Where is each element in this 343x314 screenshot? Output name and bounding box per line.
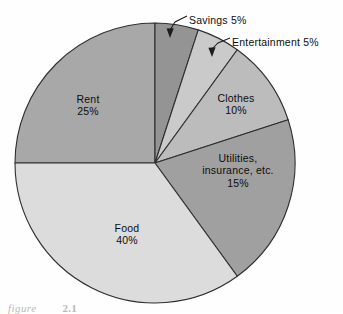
pie-label-utilities: Utilities, insurance, etc. 15% bbox=[186, 152, 290, 189]
pie-label-clothes: Clothes 10% bbox=[203, 92, 269, 117]
pie-label-savings-text: Savings 5% bbox=[189, 14, 247, 26]
pie-label-food-value: 40% bbox=[94, 234, 160, 246]
pie-label-clothes-value: 10% bbox=[203, 104, 269, 116]
figure-caption: figure2.1 bbox=[8, 302, 77, 314]
pie-label-food-name: Food bbox=[94, 222, 160, 234]
pie-label-rent: Rent 25% bbox=[59, 93, 117, 118]
pie-label-entertainment: Entertainment 5% bbox=[232, 36, 319, 48]
pie-label-utilities-value: 15% bbox=[186, 177, 290, 189]
pie-label-entertainment-text: Entertainment 5% bbox=[232, 36, 319, 48]
figure-caption-number: 2.1 bbox=[63, 302, 77, 314]
pie-label-food: Food 40% bbox=[94, 222, 160, 247]
pie-label-clothes-name: Clothes bbox=[203, 92, 269, 104]
pie-label-rent-value: 25% bbox=[59, 105, 117, 117]
pie-label-utilities-name-line1: Utilities, bbox=[186, 152, 290, 164]
pie-label-rent-name: Rent bbox=[59, 93, 117, 105]
pie-label-utilities-name-line2: insurance, etc. bbox=[186, 164, 290, 176]
pie-label-savings: Savings 5% bbox=[189, 14, 247, 26]
figure-caption-text: figure bbox=[8, 302, 37, 314]
